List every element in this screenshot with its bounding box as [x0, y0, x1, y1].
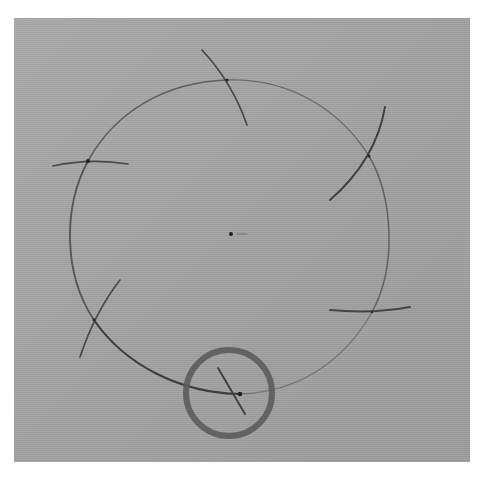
arc-upper-left — [53, 161, 128, 166]
division-point-lower-right — [371, 311, 374, 314]
arc-upper-right — [330, 107, 385, 200]
arc-top — [202, 50, 247, 125]
division-point-upper-left — [86, 159, 90, 163]
main-circle — [70, 80, 389, 394]
division-point-lower-left — [93, 319, 96, 322]
arc-lower-left — [80, 280, 120, 357]
division-point-bottom — [238, 392, 242, 396]
arc-lower-right — [330, 307, 410, 311]
figure-stage: Circle divided with compass arcs; the la… — [0, 0, 492, 488]
division-point-top — [226, 79, 229, 82]
arc-bottom — [218, 368, 245, 414]
division-point-upper-right — [367, 154, 370, 157]
center-point — [229, 232, 233, 236]
pencil-construction-drawing — [0, 0, 492, 488]
